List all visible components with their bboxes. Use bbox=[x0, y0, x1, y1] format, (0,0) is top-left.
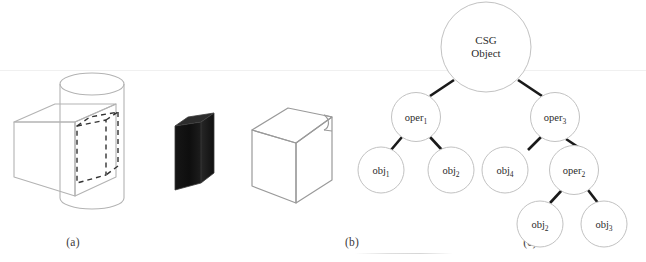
scan-artifact-bottom bbox=[355, 253, 453, 254]
panel-b-solid-block: (b) bbox=[160, 0, 240, 262]
intersection-right-face bbox=[77, 120, 106, 183]
edge-oper2-obj3 bbox=[588, 190, 598, 203]
panel-a-cube-cylinder: (a) bbox=[0, 0, 160, 262]
cube-front-face bbox=[252, 130, 296, 203]
node-root-label-line2: Object bbox=[471, 47, 500, 59]
panel-c-drawing bbox=[240, 0, 350, 230]
block-front-face bbox=[175, 122, 201, 190]
cube-left-face bbox=[14, 122, 75, 196]
csg-figure: (a) bbox=[0, 0, 646, 262]
cylinder-bottom-arc bbox=[60, 198, 124, 209]
cylinder-top-ellipse bbox=[60, 73, 124, 95]
edge-root-oper3 bbox=[518, 80, 542, 96]
edge-oper2-obj2b bbox=[550, 190, 562, 203]
cube-top-face bbox=[14, 104, 116, 122]
edge-oper1-obj1 bbox=[391, 137, 402, 150]
panel-a-drawing bbox=[0, 0, 160, 230]
panel-c-notched-cube: (c) bbox=[240, 0, 350, 262]
caption-a: (a) bbox=[43, 236, 103, 248]
panel-b-drawing bbox=[160, 0, 240, 230]
block-side-face bbox=[201, 113, 214, 183]
csg-tree-drawing: CSG Object oper1 oper3 obj1 obj2 obj4 op… bbox=[350, 0, 646, 262]
notch-bottom-edge bbox=[324, 130, 332, 131]
edge-oper1-obj2a bbox=[430, 137, 442, 150]
edge-root-oper1 bbox=[430, 80, 454, 96]
node-root-label-line1: CSG bbox=[475, 34, 496, 46]
edge-oper3-obj4 bbox=[528, 137, 541, 150]
csg-tree: CSG Object oper1 oper3 obj1 obj2 obj4 op… bbox=[350, 0, 646, 262]
